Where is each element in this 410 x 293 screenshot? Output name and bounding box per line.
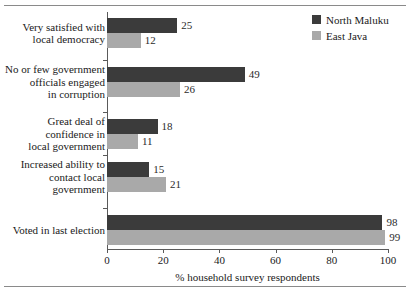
chart-figure: Very satisfied with local democracyNo or… xyxy=(0,0,410,293)
legend-label-east-java: East Java xyxy=(326,30,367,42)
x-axis-tick xyxy=(107,249,108,253)
y-axis-tick xyxy=(103,60,107,61)
bar-north-maluku[interactable] xyxy=(107,215,382,230)
category-label: Great deal of confidence in local govern… xyxy=(0,115,105,153)
legend-label-north-maluku: North Maluku xyxy=(326,14,389,26)
bar-value-label: 21 xyxy=(170,177,181,192)
bar-value-label: 18 xyxy=(162,119,173,134)
top-rule xyxy=(4,5,406,6)
category-label: No or few government officials engaged i… xyxy=(0,63,105,101)
plot-area: Very satisfied with local democracyNo or… xyxy=(107,12,388,249)
x-axis-tick-label: 20 xyxy=(158,254,169,266)
bar-value-label: 25 xyxy=(181,18,192,33)
bar-east-java[interactable] xyxy=(107,82,180,97)
bar-value-label: 98 xyxy=(386,215,397,230)
x-axis-tick-label: 0 xyxy=(104,254,110,266)
legend: North Maluku East Java xyxy=(312,13,389,45)
x-axis-tick xyxy=(219,249,220,253)
bar-east-java[interactable] xyxy=(107,134,138,149)
x-axis-tick xyxy=(388,249,389,253)
x-axis-tick-label: 80 xyxy=(326,254,337,266)
bar-north-maluku[interactable] xyxy=(107,67,245,82)
x-axis-tick xyxy=(276,249,277,253)
x-axis-line xyxy=(107,249,388,250)
bottom-rule xyxy=(4,286,406,287)
x-axis-tick-label: 60 xyxy=(270,254,281,266)
bar-value-label: 12 xyxy=(145,33,156,48)
y-axis-tick xyxy=(103,208,107,209)
category-label: Very satisfied with local democracy xyxy=(0,21,105,46)
x-axis-tick xyxy=(163,249,164,253)
bar-east-java[interactable] xyxy=(107,230,385,245)
bar-north-maluku[interactable] xyxy=(107,18,177,33)
bar-value-label: 15 xyxy=(153,162,164,177)
x-axis-tick-label: 40 xyxy=(214,254,225,266)
bar-east-java[interactable] xyxy=(107,33,141,48)
x-axis-tick-label: 100 xyxy=(380,254,397,266)
category-label: Increased ability to contact local gover… xyxy=(0,158,105,196)
category-label: Voted in last election xyxy=(0,224,105,237)
y-axis-tick xyxy=(103,155,107,156)
legend-swatch-icon-north-maluku xyxy=(312,15,321,24)
bar-north-maluku[interactable] xyxy=(107,119,158,134)
bar-value-label: 99 xyxy=(389,230,400,245)
x-axis-title: % household survey respondents xyxy=(107,271,388,283)
bar-value-label: 49 xyxy=(249,67,260,82)
bar-value-label: 11 xyxy=(142,134,153,149)
y-axis-tick xyxy=(103,112,107,113)
x-axis-tick xyxy=(332,249,333,253)
bar-value-label: 26 xyxy=(184,82,195,97)
bar-east-java[interactable] xyxy=(107,177,166,192)
legend-swatch-icon-east-java xyxy=(312,31,321,40)
legend-item-north-maluku[interactable]: North Maluku xyxy=(312,13,389,26)
category-label-group: Very satisfied with local democracyNo or… xyxy=(0,12,105,249)
legend-item-east-java[interactable]: East Java xyxy=(312,29,389,42)
bar-north-maluku[interactable] xyxy=(107,162,149,177)
